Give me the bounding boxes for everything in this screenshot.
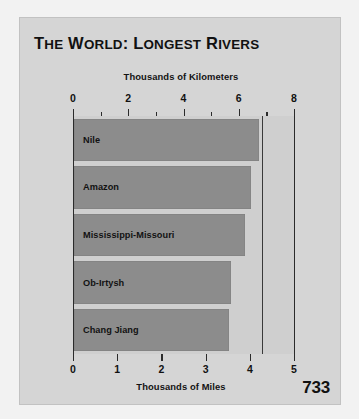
bottom-axis-label: Thousands of Miles bbox=[20, 381, 342, 392]
bar-label: Amazon bbox=[83, 182, 119, 192]
bar-mississippi-missouri: Mississippi-Missouri bbox=[74, 214, 245, 257]
axis-tick bbox=[250, 354, 251, 361]
axis-tick-label: 8 bbox=[291, 92, 297, 104]
axis-tick bbox=[161, 354, 162, 361]
axis-tick bbox=[117, 354, 118, 361]
top-axis-label: Thousands of Kilometers bbox=[20, 71, 342, 82]
axis-tick bbox=[73, 354, 74, 361]
bar-chang-jiang: Chang Jiang bbox=[74, 309, 229, 352]
bar-nile: Nile bbox=[74, 119, 259, 162]
bar-label: Nile bbox=[83, 135, 100, 145]
axis-tick-label: 0 bbox=[70, 92, 76, 104]
page-number: 733 bbox=[302, 378, 330, 398]
bar-label: Mississippi-Missouri bbox=[83, 230, 174, 240]
axis-tick-label: 5 bbox=[291, 363, 297, 375]
axis-tick-label: 4 bbox=[181, 92, 187, 104]
axis-tick-label: 2 bbox=[158, 363, 164, 375]
axis-tick-label: 3 bbox=[203, 363, 209, 375]
axis-tick-label: 1 bbox=[114, 363, 120, 375]
bar-ob-irtysh: Ob-Irtysh bbox=[74, 261, 231, 304]
inner-vertical-rule bbox=[262, 116, 263, 354]
figure-panel: THE WORLD: LONGEST RIVERS Thousands of K… bbox=[19, 17, 341, 405]
top-axis-tick-labels: 02468 bbox=[73, 92, 295, 106]
top-axis-ticks bbox=[73, 109, 295, 116]
axis-tick-label: 6 bbox=[236, 92, 242, 104]
axis-tick bbox=[294, 354, 295, 361]
chart-title: THE WORLD: LONGEST RIVERS bbox=[34, 34, 259, 53]
axis-tick bbox=[128, 109, 129, 116]
bottom-axis-ticks bbox=[73, 354, 295, 361]
bar-amazon: Amazon bbox=[74, 166, 251, 209]
axis-tick bbox=[239, 109, 240, 116]
bottom-axis-tick-labels: 012345 bbox=[73, 363, 295, 377]
axis-tick bbox=[206, 354, 207, 361]
page-canvas: THE WORLD: LONGEST RIVERS Thousands of K… bbox=[0, 0, 359, 419]
axis-tick bbox=[184, 109, 185, 116]
bar-label: Ob-Irtysh bbox=[83, 278, 124, 288]
axis-tick-label: 0 bbox=[70, 363, 76, 375]
axis-tick-label: 2 bbox=[125, 92, 131, 104]
axis-tick-label: 4 bbox=[247, 363, 253, 375]
plot-right-axis-rule bbox=[294, 114, 295, 356]
bar-label: Chang Jiang bbox=[83, 325, 139, 335]
axis-tick bbox=[73, 109, 74, 116]
